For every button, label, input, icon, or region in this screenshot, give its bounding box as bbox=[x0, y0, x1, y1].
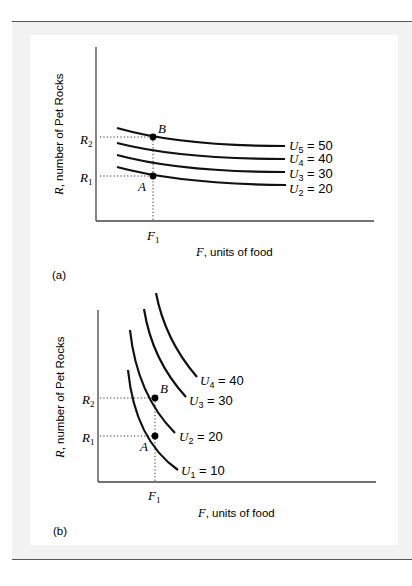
f1-label: F1 bbox=[146, 228, 159, 245]
point-b-label: B bbox=[160, 381, 168, 396]
x-axis-title: F, units of food bbox=[195, 245, 273, 259]
y-axis-title: R, number of Pet Rocks bbox=[52, 73, 66, 196]
curve-u2-label: U2 = 20 bbox=[289, 181, 333, 198]
panel-a: B A R2 R1 F1 U5 = 50 U4 = 40 U3 = 30 U2 … bbox=[52, 47, 374, 281]
x-axis-title: F, units of food bbox=[197, 506, 275, 520]
r1-label: R1 bbox=[79, 170, 92, 187]
panel-b-tag: (b) bbox=[53, 525, 67, 537]
point-a bbox=[150, 173, 157, 180]
point-b bbox=[150, 134, 157, 141]
point-b bbox=[152, 395, 159, 402]
y-axis-title: R, number of Pet Rocks bbox=[53, 336, 67, 459]
curve-u2-label: U2 = 20 bbox=[179, 429, 223, 446]
point-a bbox=[152, 433, 159, 440]
indifference-curve-figure: B A R2 R1 F1 U5 = 50 U4 = 40 U3 = 30 U2 … bbox=[0, 0, 412, 586]
point-b-label: B bbox=[158, 121, 166, 136]
curve-u1 bbox=[128, 370, 178, 470]
point-a-label: A bbox=[137, 179, 146, 194]
curve-u4-label: U4 = 40 bbox=[200, 373, 244, 390]
panel-b: B A R2 R1 F1 U4 = 40 U3 = 30 U2 = 20 U1 … bbox=[53, 293, 376, 537]
curve-u3 bbox=[117, 155, 285, 172]
curve-u2 bbox=[130, 330, 175, 433]
curve-u3-label: U3 = 30 bbox=[189, 393, 233, 410]
curve-u1-label: U1 = 10 bbox=[181, 463, 225, 480]
f1-label: F1 bbox=[147, 488, 160, 505]
panel-a-tag: (a) bbox=[52, 269, 66, 281]
r2-label: R2 bbox=[79, 132, 92, 149]
point-a-label: A bbox=[139, 439, 148, 454]
r2-label: R2 bbox=[81, 392, 94, 409]
r1-label: R1 bbox=[81, 430, 94, 447]
curve-u5 bbox=[117, 128, 285, 146]
